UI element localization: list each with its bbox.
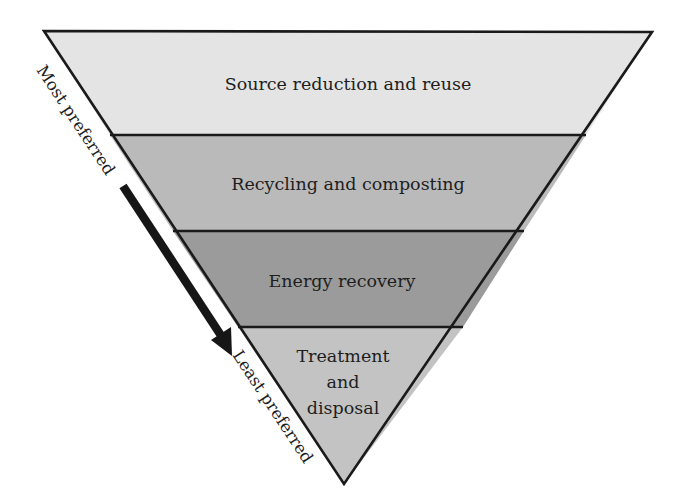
band-label-recycling: Recycling and composting [231,174,464,194]
band-label-treatment-line3: disposal [307,398,380,418]
band-label-treatment-line2: and [327,372,360,392]
waste-hierarchy-diagram: Source reduction and reuse Recycling and… [0,0,686,502]
band-label-treatment-line1: Treatment [296,346,389,366]
band-label-source-reduction: Source reduction and reuse [225,74,472,94]
band-label-energy-recovery: Energy recovery [269,271,416,291]
